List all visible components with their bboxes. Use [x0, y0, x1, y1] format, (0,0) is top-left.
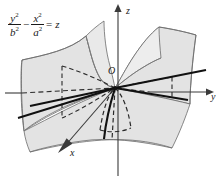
z-axis-label: z	[126, 6, 130, 16]
equation-fraction-left: y2 b2	[8, 11, 21, 39]
equation-numerator-left: y2	[8, 11, 21, 25]
equation-equals-sign: =	[44, 19, 54, 30]
surface-equation-label: y2 b2 − x2 a2 =z	[8, 11, 60, 39]
equation-denominator-left: b2	[8, 25, 21, 38]
equation-denominator-right: a2	[31, 25, 44, 38]
figure-canvas: y2 b2 − x2 a2 =z z y x O	[0, 0, 223, 177]
equation-numerator-right: x2	[31, 11, 44, 25]
origin-point	[113, 86, 117, 90]
origin-label: O	[108, 66, 115, 76]
z-axis-arrowhead	[114, 4, 121, 12]
equation-operator: −	[21, 19, 31, 30]
y-axis-label: y	[211, 92, 215, 102]
x-axis-label: x	[70, 148, 74, 158]
equation-fraction-right: x2 a2	[31, 11, 44, 39]
equation-right-hand-side: z	[54, 19, 59, 30]
